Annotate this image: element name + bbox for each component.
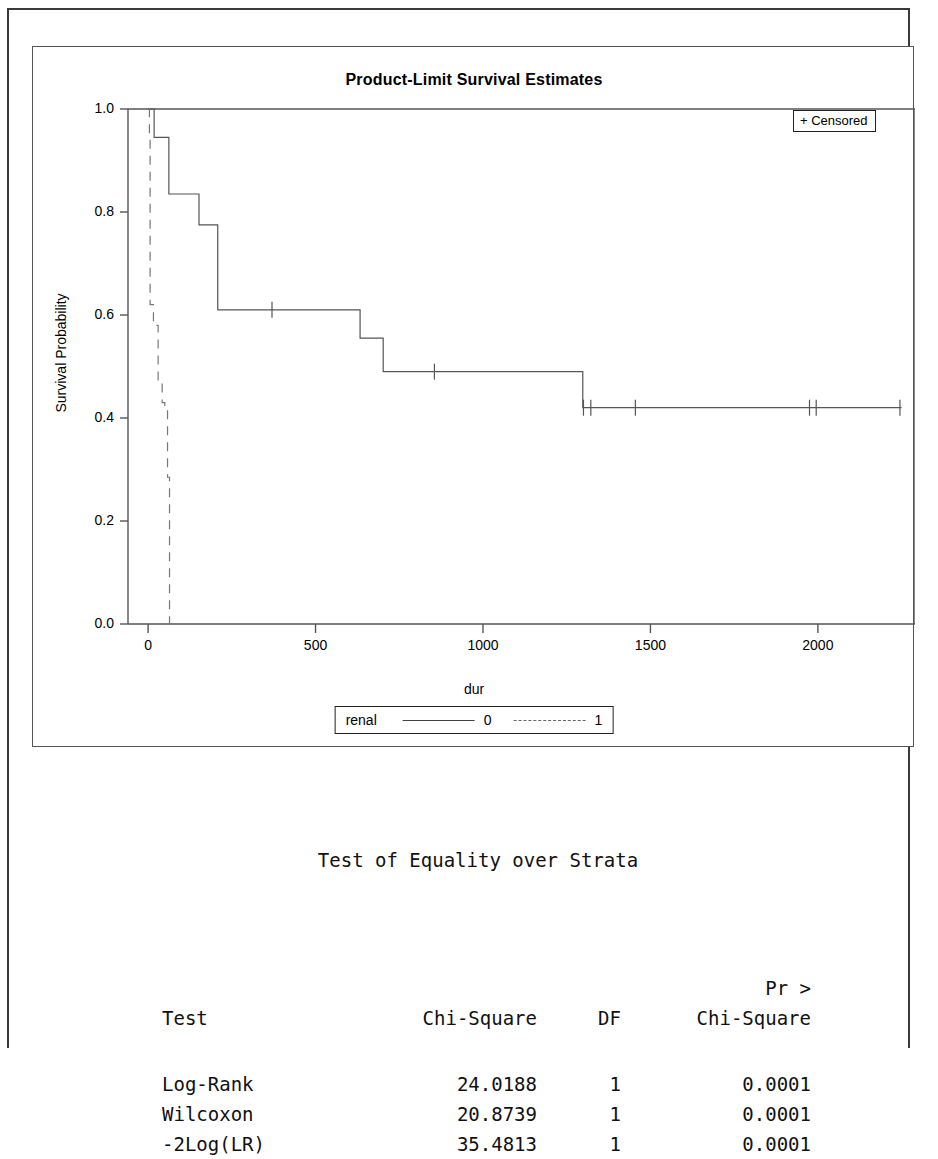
y-axis-tick-label: 0.6 xyxy=(68,306,114,322)
stats-header-blank-2 xyxy=(337,973,537,1003)
x-axis-tick-label: 0 xyxy=(118,637,178,653)
stats-header-pr-row: Pr > xyxy=(162,973,811,1003)
stats-cell-chi-square: 35.4813 xyxy=(337,1129,537,1159)
x-axis-tick-label: 2000 xyxy=(788,637,848,653)
stats-cell-test: -2Log(LR) xyxy=(162,1129,337,1159)
y-axis-tick-label: 0.4 xyxy=(68,409,114,425)
stats-row: Wilcoxon20.873910.0001 xyxy=(162,1099,811,1129)
stats-header-row: Test Chi-Square DF Chi-Square xyxy=(162,1003,811,1033)
stats-header-test: Test xyxy=(162,1003,337,1033)
series-group xyxy=(148,109,902,624)
strata-legend: renal 0 1 xyxy=(335,706,614,734)
stats-cell-df: 1 xyxy=(537,1099,621,1129)
stats-row: Log-Rank24.018810.0001 xyxy=(162,1069,811,1099)
stats-cell-df: 1 xyxy=(537,1129,621,1159)
plot-area: 0.00.20.40.60.81.0 0500100015002000 Surv… xyxy=(33,47,915,748)
stats-cell-chi-square: 24.0188 xyxy=(337,1069,537,1099)
stats-header-blank-1 xyxy=(162,973,337,1003)
x-axis-tick-label: 1000 xyxy=(453,637,513,653)
x-axis-tick-label: 500 xyxy=(286,637,346,653)
y-axis-title: Survival Probability xyxy=(53,253,69,453)
stats-cell-test: Wilcoxon xyxy=(162,1099,337,1129)
censored-marks-group xyxy=(272,302,900,416)
stats-spacer-cell xyxy=(162,1033,811,1069)
x-axis-tick-label: 1500 xyxy=(620,637,680,653)
legend-label-1: 1 xyxy=(595,712,603,728)
stats-output-block: Test of Equality over Strata Pr > Test C… xyxy=(32,785,914,1159)
page-frame: Product-Limit Survival Estimates 0.00.20… xyxy=(7,8,910,1048)
stats-cell-pr: 0.0001 xyxy=(621,1099,811,1129)
stats-cell-pr: 0.0001 xyxy=(621,1129,811,1159)
stats-cell-df: 1 xyxy=(537,1069,621,1099)
stats-header-chi-square: Chi-Square xyxy=(337,1003,537,1033)
stats-cell-pr: 0.0001 xyxy=(621,1069,811,1099)
stats-cell-chi-square: 20.8739 xyxy=(337,1099,537,1129)
stats-table: Pr > Test Chi-Square DF Chi-Square Log-R… xyxy=(162,973,811,1159)
censored-legend: + Censored xyxy=(793,110,876,132)
stats-title: Test of Equality over Strata xyxy=(32,845,914,875)
survival-curve-0 xyxy=(148,109,902,408)
legend-entry-1: 1 xyxy=(514,712,603,728)
legend-entry-0: 0 xyxy=(403,712,492,728)
stats-header-pr-line1: Pr > xyxy=(621,973,811,1003)
survival-curve-1 xyxy=(149,109,170,624)
stats-header-pr-chi-square: Chi-Square xyxy=(621,1003,811,1033)
axes-group xyxy=(120,109,915,633)
stats-cell-test: Log-Rank xyxy=(162,1069,337,1099)
legend-variable-label: renal xyxy=(346,712,377,728)
y-axis-tick-label: 0.2 xyxy=(68,512,114,528)
stats-header-df: DF xyxy=(537,1003,621,1033)
y-axis-tick-label: 0.8 xyxy=(68,203,114,219)
stats-header-blank-3 xyxy=(537,973,621,1003)
legend-label-0: 0 xyxy=(484,712,492,728)
graph-panel: Product-Limit Survival Estimates 0.00.20… xyxy=(32,46,914,747)
y-axis-tick-label: 0.0 xyxy=(68,615,114,631)
x-axis-title: dur xyxy=(33,681,915,697)
legend-line-dashed-icon xyxy=(514,720,586,721)
stats-rows-body: Log-Rank24.018810.0001Wilcoxon20.873910.… xyxy=(162,1069,811,1159)
legend-line-solid-icon xyxy=(403,720,475,721)
y-axis-tick-label: 1.0 xyxy=(68,100,114,116)
stats-row: -2Log(LR)35.481310.0001 xyxy=(162,1129,811,1159)
stats-spacer-row xyxy=(162,1033,811,1069)
